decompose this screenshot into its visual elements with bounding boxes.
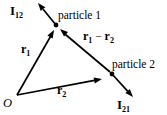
r2-vector-shaft xyxy=(17,80,95,95)
impulse12-label: I12 xyxy=(10,3,23,20)
impulse12-vector-shaft xyxy=(43,9,56,25)
particle1-label: particle 1 xyxy=(58,9,101,22)
particle2-dot xyxy=(110,72,115,77)
particle2-label: particle 2 xyxy=(112,58,155,71)
r1-minus-r2-label: r1−r2 xyxy=(83,29,114,45)
origin-label: O xyxy=(3,96,12,110)
r2-arrowhead-icon xyxy=(94,78,102,84)
impulse21-vector-shaft xyxy=(112,74,128,91)
r1-label: r1 xyxy=(21,42,30,58)
vector-diagram-canvas: I12 particle 1 r1−r2 particle 2 r1 r2 O … xyxy=(0,0,167,115)
particle1-dot xyxy=(54,23,59,28)
r1-arrowhead-icon xyxy=(47,30,54,38)
physics-vector-diagram: I12 particle 1 r1−r2 particle 2 r1 r2 O … xyxy=(0,0,167,115)
impulse21-label: I21 xyxy=(117,97,130,114)
